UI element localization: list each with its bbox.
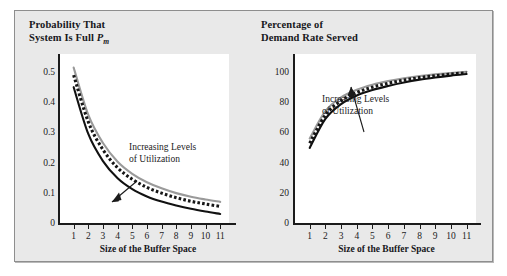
chart-left-title-subscript: m — [103, 37, 109, 46]
xtick-9 — [435, 225, 436, 229]
chart-left-title: Probability That System Is Full Pm — [29, 19, 109, 48]
chart-right-plot-area — [294, 54, 476, 223]
chart-right-curves — [294, 54, 476, 223]
xtick-2 — [325, 225, 326, 229]
xtick-4 — [118, 225, 119, 229]
chart-left-ytick-3: 0.3 — [25, 127, 55, 137]
xtick-3 — [103, 225, 104, 229]
xtick-5 — [132, 225, 133, 229]
xtick-1 — [74, 225, 75, 229]
series-medium-utilization — [74, 75, 221, 206]
xtick-3 — [341, 225, 342, 229]
chart-left-ytick-2: 0.2 — [25, 158, 55, 168]
chart-left-ytick-5: 0.5 — [25, 67, 55, 77]
xtick-10 — [206, 225, 207, 229]
chart-left-curves — [59, 54, 229, 223]
chart-right-title: Percentage of Demand Rate Served — [261, 19, 358, 44]
chart-left-ytick-0: 0 — [25, 218, 55, 228]
figure-root: Probability That System Is Full Pm 0 0.1… — [0, 0, 507, 276]
xtick-label-11: 11 — [210, 231, 230, 241]
chart-left-ytick-1: 0.1 — [25, 188, 55, 198]
chart-left: Probability That System Is Full Pm 0 0.1… — [15, 11, 247, 261]
xtick-4 — [357, 225, 358, 229]
chart-right-ytick-2: 40 — [259, 158, 289, 168]
chart-left-xaxis-caption: Size of the Buffer Space — [59, 244, 237, 254]
xtick-6 — [147, 225, 148, 229]
chart-right: Percentage of Demand Rate Served 0 20 40… — [247, 11, 494, 261]
xtick-7 — [162, 225, 163, 229]
chart-left-annotation: Increasing Levels of Utilization — [129, 142, 196, 165]
chart-right-xaxis-caption: Size of the Buffer Space — [294, 244, 479, 254]
xtick-label-11: 11 — [457, 231, 477, 241]
xtick-7 — [404, 225, 405, 229]
xtick-8 — [176, 225, 177, 229]
xtick-2 — [88, 225, 89, 229]
chart-left-ytick-4: 0.4 — [25, 97, 55, 107]
chart-right-ytick-0: 0 — [259, 218, 289, 228]
xtick-8 — [420, 225, 421, 229]
xtick-9 — [191, 225, 192, 229]
xtick-11 — [467, 225, 468, 229]
chart-left-plot-area — [59, 54, 229, 223]
xtick-6 — [388, 225, 389, 229]
xtick-10 — [451, 225, 452, 229]
chart-right-ytick-1: 20 — [259, 188, 289, 198]
xtick-11 — [220, 225, 221, 229]
chart-right-ytick-5: 100 — [255, 67, 289, 77]
xtick-5 — [372, 225, 373, 229]
chart-right-ytick-4: 80 — [259, 97, 289, 107]
chart-right-y-axis — [293, 54, 295, 225]
figure-panel: Probability That System Is Full Pm 0 0.1… — [14, 10, 493, 262]
chart-left-y-axis — [58, 54, 60, 225]
chart-right-annotation: Increasing Levels of Utilization — [322, 94, 389, 117]
chart-right-ytick-3: 60 — [259, 127, 289, 137]
xtick-1 — [310, 225, 311, 229]
